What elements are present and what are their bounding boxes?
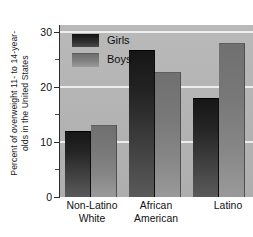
legend-label-boys: Boys	[107, 54, 131, 65]
gridline-30	[60, 31, 253, 33]
girls-swatch-icon	[72, 34, 99, 47]
plot-area: Girls Boys	[60, 25, 253, 197]
y-tick-label-30: 30	[32, 27, 52, 37]
x-tick-label-latino: Latino	[188, 200, 253, 213]
bar-girls-non-latino-white	[65, 131, 91, 197]
bar-boys-african-american	[155, 72, 181, 197]
x-axis-tick-labels: Non-Latino White African American Latino	[60, 200, 253, 237]
boys-swatch-icon	[72, 53, 99, 67]
y-axis-tick-labels: 30 20 10 0	[30, 0, 52, 237]
bar-boys-latino	[219, 43, 245, 197]
bar-girls-african-american	[129, 50, 155, 197]
legend: Girls Boys	[72, 34, 158, 72]
y-axis-title: Percent of overweight 11- to 14-year- ol…	[9, 15, 31, 191]
legend-label-girls: Girls	[107, 35, 130, 46]
legend-item-boys: Boys	[72, 53, 158, 66]
y-tick-label-0: 0	[32, 192, 52, 202]
bar-girls-latino	[193, 98, 219, 197]
bar-boys-non-latino-white	[91, 125, 117, 197]
x-tick-label-african-american: African American	[116, 200, 196, 225]
y-tick-label-10: 10	[32, 137, 52, 147]
y-tick-label-20: 20	[32, 82, 52, 92]
y-axis-title-container: Percent of overweight 11- to 14-year- ol…	[0, 0, 34, 200]
bar-chart-figure: Percent of overweight 11- to 14-year- ol…	[0, 0, 253, 237]
legend-item-girls: Girls	[72, 34, 158, 47]
